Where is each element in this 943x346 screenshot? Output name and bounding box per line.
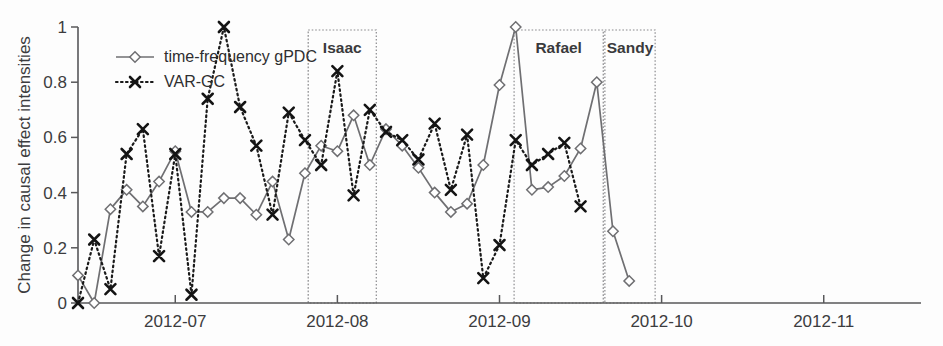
chart-legend: time-frequency gPDCVAR-GC [116, 48, 317, 90]
data-point-vargc [543, 149, 553, 159]
annotation-label-sandy: Sandy [607, 39, 654, 56]
data-point-gpdc [527, 185, 537, 195]
data-point-gpdc [494, 80, 504, 90]
annotation-label-isaac: Isaac [323, 39, 362, 56]
annotation-label-rafael: Rafael [535, 39, 582, 56]
data-point-gpdc [73, 270, 83, 280]
data-point-gpdc [543, 182, 553, 192]
legend-marker-gpdc [130, 52, 140, 62]
data-point-vargc [251, 141, 261, 151]
data-point-gpdc [332, 146, 342, 156]
line-chart-canvas: IsaacRafaelSandy 00.20.40.60.812012-0720… [0, 0, 943, 346]
x-tick-label: 2012-10 [630, 312, 692, 331]
data-point-gpdc [592, 77, 602, 87]
data-point-gpdc [559, 171, 569, 181]
data-point-vargc [576, 201, 586, 211]
x-tick-label: 2012-08 [306, 312, 368, 331]
y-tick-label: 0.8 [43, 73, 67, 92]
data-point-gpdc [575, 143, 585, 153]
data-point-gpdc [284, 234, 294, 244]
data-point-gpdc [348, 110, 358, 120]
data-point-gpdc [478, 160, 488, 170]
y-tick-label: 0.6 [43, 128, 67, 147]
chart-series [73, 22, 635, 308]
data-point-gpdc [462, 198, 472, 208]
series-line-gpdc [78, 27, 629, 303]
data-point-vargc [430, 119, 440, 129]
data-point-gpdc [365, 160, 375, 170]
y-tick-label: 1 [58, 18, 67, 37]
data-point-gpdc [186, 207, 196, 217]
data-point-gpdc [624, 276, 634, 286]
x-tick-label: 2012-11 [793, 312, 854, 331]
x-tick-label: 2012-09 [468, 312, 530, 331]
y-tick-label: 0 [58, 294, 67, 313]
legend-label-vargc: VAR-GC [164, 73, 225, 90]
data-point-gpdc [89, 298, 99, 308]
y-tick-label: 0.2 [43, 239, 67, 258]
data-point-vargc [527, 160, 537, 170]
annotation-box-rafael [514, 30, 603, 303]
data-point-gpdc [608, 226, 618, 236]
chart-figure: IsaacRafaelSandy 00.20.40.60.812012-0720… [0, 0, 943, 346]
y-axis-title: Change in causal effect intensities [15, 36, 34, 294]
data-point-vargc [511, 135, 521, 145]
annotation-box-sandy [605, 30, 655, 303]
legend-label-gpdc: time-frequency gPDC [164, 48, 317, 65]
y-tick-label: 0.4 [43, 184, 67, 203]
x-tick-label: 2012-07 [144, 312, 206, 331]
axis-lines [78, 27, 921, 303]
data-point-gpdc [154, 176, 164, 186]
data-point-gpdc [511, 22, 521, 32]
